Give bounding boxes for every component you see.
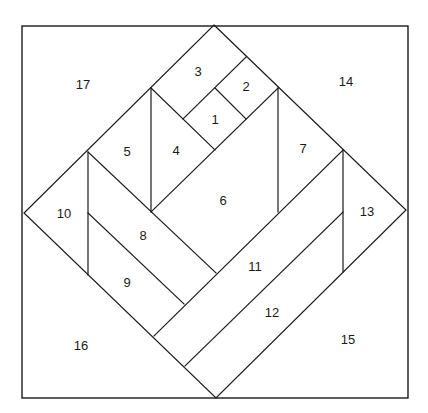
piece-label-10: 10 bbox=[57, 207, 71, 220]
piece-label-3: 3 bbox=[194, 65, 201, 78]
seam-7-11 bbox=[154, 150, 343, 336]
piece-label-16: 16 bbox=[74, 339, 88, 352]
seam-1-2 bbox=[215, 88, 246, 119]
piece-label-11: 11 bbox=[248, 260, 262, 273]
piece-label-9: 9 bbox=[123, 276, 130, 289]
piece-label-17: 17 bbox=[76, 78, 90, 91]
piece-label-7: 7 bbox=[299, 142, 306, 155]
seam-11-12 bbox=[185, 212, 343, 366]
seam-5-8 bbox=[88, 152, 216, 273]
piece-label-14: 14 bbox=[339, 75, 353, 88]
piece-label-15: 15 bbox=[341, 333, 355, 346]
piece-label-5: 5 bbox=[123, 145, 130, 158]
piece-label-1: 1 bbox=[211, 113, 218, 126]
piece-label-8: 8 bbox=[139, 229, 146, 242]
piece-label-6: 6 bbox=[219, 194, 226, 207]
piece-label-13: 13 bbox=[360, 205, 374, 218]
piece-label-4: 4 bbox=[172, 144, 179, 157]
seam-8-9 bbox=[88, 213, 184, 304]
piece-label-12: 12 bbox=[265, 306, 279, 319]
piece-label-2: 2 bbox=[242, 80, 249, 93]
